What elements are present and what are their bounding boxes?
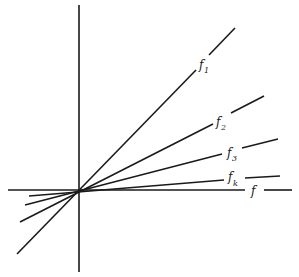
line-f3: f 3 (25, 139, 278, 205)
line-f3-upper (242, 139, 278, 148)
line-f2-label-sub: 2 (220, 123, 226, 132)
line-fk: f k (29, 170, 280, 196)
diagram-canvas: f f 1 f 2 f 3 f k (0, 0, 299, 277)
line-fk-upper (245, 176, 280, 178)
axes: f (8, 5, 292, 272)
line-fk-label-sub: k (233, 179, 238, 188)
line-f3-label-sub: 3 (232, 154, 237, 163)
line-f1-label-sub: 1 (204, 66, 209, 75)
line-f2-upper (231, 96, 264, 113)
line-f3-lower (25, 154, 222, 205)
line-f1-lower (17, 70, 196, 254)
line-f2-lower (20, 124, 213, 222)
line-fk-lower (29, 180, 224, 196)
line-f1: f 1 (17, 28, 235, 254)
horizontal-axis-label: f (250, 184, 258, 198)
line-f1-upper (209, 28, 235, 55)
